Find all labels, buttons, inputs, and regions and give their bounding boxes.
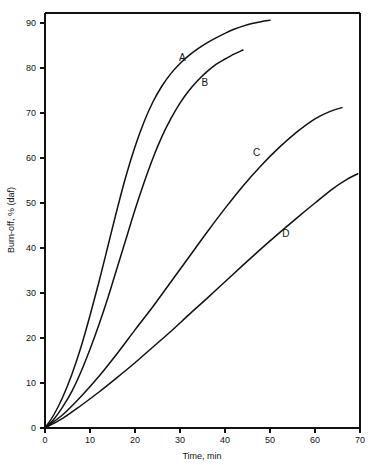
- y-tick-label-30: 30: [26, 288, 36, 298]
- x-tick-label-20: 20: [130, 435, 140, 445]
- x-tick-label-10: 10: [85, 435, 95, 445]
- y-tick-label-90: 90: [26, 18, 36, 28]
- y-axis-ticks: 0102030405060708090: [26, 18, 45, 433]
- x-tick-label-40: 40: [220, 435, 230, 445]
- x-tick-label-30: 30: [175, 435, 185, 445]
- y-tick-label-40: 40: [26, 243, 36, 253]
- y-axis-title: Burn-off, % (daf): [6, 187, 16, 253]
- curve-label-a: A: [179, 52, 186, 63]
- y-tick-label-50: 50: [26, 198, 36, 208]
- burn-off-line-chart: 0102030405060708090 010203040506070 Time…: [0, 0, 373, 465]
- x-tick-label-70: 70: [355, 435, 365, 445]
- y-tick-label-20: 20: [26, 333, 36, 343]
- curve-label-c: C: [253, 147, 260, 158]
- x-tick-label-0: 0: [42, 435, 47, 445]
- y-tick-label-10: 10: [26, 378, 36, 388]
- x-tick-label-60: 60: [310, 435, 320, 445]
- x-tick-label-50: 50: [265, 435, 275, 445]
- curve-label-b: B: [201, 77, 208, 88]
- x-axis-title: Time, min: [182, 451, 221, 461]
- x-axis-ticks: 010203040506070: [42, 428, 365, 445]
- y-tick-label-70: 70: [26, 108, 36, 118]
- chart-figure: 0102030405060708090 010203040506070 Time…: [0, 0, 373, 465]
- y-tick-label-0: 0: [31, 423, 36, 433]
- y-tick-label-80: 80: [26, 63, 36, 73]
- y-tick-label-60: 60: [26, 153, 36, 163]
- curve-label-d: D: [282, 228, 289, 239]
